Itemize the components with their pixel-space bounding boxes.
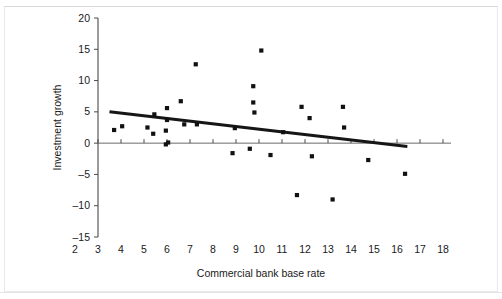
data-point-marker: [251, 84, 255, 88]
y-tick-label: –15: [72, 231, 90, 243]
data-point-marker: [233, 126, 237, 130]
data-point-marker: [403, 172, 407, 176]
data-point-marker: [230, 151, 234, 155]
data-point-marker: [308, 116, 312, 120]
y-tick-label: 0: [84, 137, 90, 149]
x-axis-ticks: [98, 139, 443, 143]
x-axis-tick-labels: 23456789101112131415161718: [72, 243, 449, 255]
x-tick-label: 11: [277, 243, 288, 255]
data-point-marker: [310, 154, 314, 158]
data-point-marker: [112, 128, 116, 132]
plot-canvas: –15–10–505101520 23456789101112131415161…: [0, 0, 502, 299]
scatter-chart-figure: –15–10–505101520 23456789101112131415161…: [0, 0, 502, 299]
data-point-marker: [366, 158, 370, 162]
x-tick-label: 10: [253, 243, 265, 255]
data-point-marker: [259, 48, 263, 52]
data-point-marker: [120, 124, 124, 128]
x-tick-label: 9: [233, 243, 239, 255]
data-point-marker: [165, 118, 169, 122]
y-tick-label: 5: [84, 105, 90, 117]
x-tick-label: 2: [72, 243, 78, 255]
x-tick-label: 16: [391, 243, 403, 255]
data-point-marker: [252, 110, 256, 114]
x-tick-label: 17: [414, 243, 426, 255]
x-tick-label: 18: [437, 243, 449, 255]
x-axis-title: Commercial bank base rate: [197, 267, 326, 279]
y-axis-ticks: [94, 18, 98, 237]
data-point-marker: [194, 62, 198, 66]
data-point-marker: [152, 112, 156, 116]
data-point-marker: [164, 129, 168, 133]
data-point-marker: [145, 125, 149, 129]
data-point-marker: [182, 122, 186, 126]
x-tick-label: 4: [118, 243, 124, 255]
y-tick-label: –5: [78, 168, 90, 180]
data-point-marker: [179, 99, 183, 103]
data-point-marker: [166, 140, 170, 144]
data-point-marker: [281, 130, 285, 134]
y-tick-label: –10: [72, 199, 90, 211]
x-tick-label: 6: [164, 243, 170, 255]
x-tick-label: 13: [322, 243, 334, 255]
y-tick-label: 10: [78, 74, 90, 86]
data-point-marker: [151, 132, 155, 136]
x-tick-label: 5: [141, 243, 147, 255]
x-tick-label: 14: [345, 243, 357, 255]
data-point-marker: [341, 105, 345, 109]
data-points: [112, 48, 407, 201]
data-point-marker: [268, 153, 272, 157]
x-tick-label: 7: [187, 243, 193, 255]
y-axis-tick-labels: –15–10–505101520: [72, 12, 90, 243]
data-point-marker: [248, 147, 252, 151]
data-point-marker: [195, 122, 199, 126]
data-point-marker: [295, 193, 299, 197]
x-tick-label: 15: [368, 243, 380, 255]
x-tick-label: 12: [299, 243, 311, 255]
y-axis-title: Investment growth: [51, 84, 63, 170]
data-point-marker: [342, 125, 346, 129]
data-point-marker: [251, 100, 255, 104]
y-tick-label: 15: [78, 43, 90, 55]
data-point-marker: [299, 105, 303, 109]
x-tick-label: 3: [95, 243, 101, 255]
regression-trend-line: [110, 112, 408, 147]
x-tick-label: 8: [210, 243, 216, 255]
data-point-marker: [165, 106, 169, 110]
y-tick-label: 20: [78, 12, 90, 24]
data-point-marker: [331, 197, 335, 201]
